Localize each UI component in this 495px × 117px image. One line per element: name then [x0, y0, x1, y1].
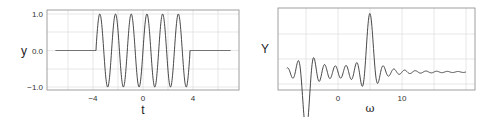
x-tick-0: 0	[141, 94, 146, 103]
time-domain-plot: 1.0 0.0 −1.0 −4 0 4 y t	[21, 10, 239, 117]
x-tick-0: 0	[336, 94, 341, 103]
figure: 1.0 0.0 −1.0 −4 0 4 y t 0 10 Y ω	[0, 0, 495, 117]
plot-frame	[278, 8, 475, 90]
x-tick-neg4: −4	[88, 94, 98, 103]
y-axis-label: Y	[261, 42, 269, 56]
y-tick-0: 0.0	[32, 47, 44, 56]
y-axis-label: y	[21, 44, 27, 58]
x-axis-label: ω	[366, 102, 375, 115]
spectrum-line	[287, 14, 466, 117]
y-tick-neg1: −1.0	[27, 83, 43, 92]
x-tick-4: 4	[191, 94, 196, 103]
x-tick-10: 10	[398, 94, 407, 103]
grid	[278, 8, 475, 90]
y-tick-1: 1.0	[32, 10, 44, 19]
x-axis-label: t	[141, 103, 145, 117]
frequency-domain-plot: 0 10 Y ω	[261, 8, 475, 117]
